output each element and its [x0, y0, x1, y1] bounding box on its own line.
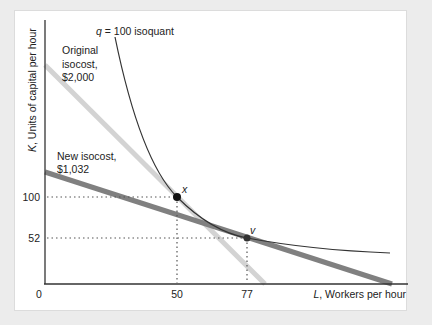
original-isocost-label-2: isocost,: [62, 58, 98, 70]
tick-77: 77: [241, 288, 253, 300]
tick-100: 100: [22, 191, 40, 203]
new-isocost-label-1: New isocost,: [57, 150, 117, 162]
tick-50: 50: [171, 288, 183, 300]
new-isocost-label-2: $1,032: [57, 163, 89, 175]
original-isocost-label-3: $2,000: [62, 71, 94, 83]
chart-svg: x v 100 52 0 50 77 L, Workers per hour K…: [0, 0, 432, 325]
tick-52: 52: [28, 232, 40, 244]
point-x-marker: [173, 193, 181, 201]
y-axis-title: K, Units of capital per hour: [26, 28, 38, 152]
point-v-label: v: [250, 224, 256, 236]
isoquant-label: q = 100 isoquant: [96, 25, 174, 37]
isoquant-curve: [115, 37, 390, 253]
point-x-label: x: [181, 183, 188, 195]
x-axis-title: L, Workers per hour: [313, 288, 406, 300]
tick-0: 0: [36, 288, 42, 300]
original-isocost-label-1: Original: [62, 44, 98, 56]
